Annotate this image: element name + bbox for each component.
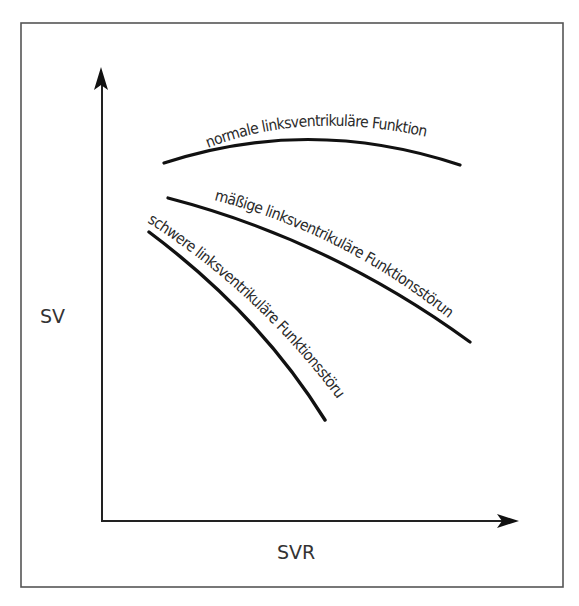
diagram-canvas: SV SVR normale linksventrikuläre Funktio… [0, 0, 579, 606]
x-axis-label: SVR [277, 541, 315, 563]
y-axis-label: SV [40, 305, 65, 327]
x-axis [102, 514, 519, 528]
y-axis [94, 67, 108, 522]
curve-severe [149, 232, 325, 420]
